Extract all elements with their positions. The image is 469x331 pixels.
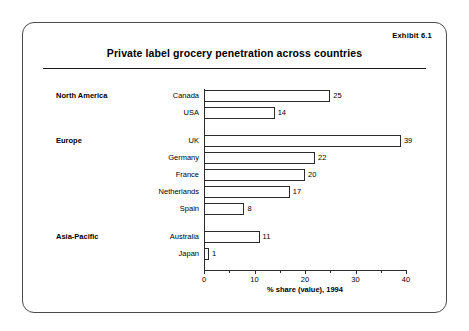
axis-tick-minor (280, 270, 281, 273)
country-label: Japan (116, 247, 199, 261)
axis-tick-major (406, 270, 407, 274)
bar-row: France20 (56, 168, 426, 182)
axis-tick-label: 20 (301, 275, 309, 284)
bar-track: 14 (204, 107, 426, 119)
bar-row: North AmericaCanada25 (56, 89, 426, 103)
bar-value-label: 8 (247, 203, 251, 215)
axis-tick-major (204, 270, 205, 274)
axis-tick-minor (330, 270, 331, 273)
axis-tick-minor (381, 270, 382, 273)
bar-row: USA14 (56, 106, 426, 120)
bar-track: 11 (204, 231, 426, 243)
group-gap (56, 123, 426, 134)
group-gap (56, 219, 426, 230)
axis-tick-label: 30 (351, 275, 359, 284)
bar-value-label: 39 (404, 135, 412, 147)
bar-track: 39 (204, 135, 426, 147)
bar-track: 25 (204, 90, 426, 102)
bar-chart: North AmericaCanada25USA14EuropeUK39Germ… (56, 89, 426, 294)
country-label: Canada (116, 89, 199, 103)
country-label: France (116, 168, 199, 182)
bar-value-label: 22 (318, 152, 326, 164)
bar (204, 203, 244, 215)
y-axis-line (204, 89, 205, 270)
axis-tick-major (255, 270, 256, 274)
bar (204, 231, 260, 243)
bar (204, 169, 305, 181)
bar-value-label: 1 (212, 248, 216, 260)
country-label: UK (116, 134, 199, 148)
country-label: Netherlands (116, 185, 199, 199)
bar-track: 20 (204, 169, 426, 181)
bar-row: Germany22 (56, 151, 426, 165)
page-title: Private label grocery penetration across… (23, 47, 446, 59)
axis-tick-label: 40 (402, 275, 410, 284)
axis-tick-label: 10 (250, 275, 258, 284)
bar-row: Spain8 (56, 202, 426, 216)
axis-tick-major (305, 270, 306, 274)
bar-track: 17 (204, 186, 426, 198)
bar-value-label: 20 (308, 169, 316, 181)
exhibit-frame: Exhibit 6.1 Private label grocery penetr… (22, 22, 447, 313)
bar-row: Netherlands17 (56, 185, 426, 199)
country-label: USA (116, 106, 199, 120)
bar (204, 107, 275, 119)
bar (204, 135, 401, 147)
bar (204, 152, 315, 164)
axis-tick-major (356, 270, 357, 274)
country-label: Australia (116, 230, 199, 244)
bar-track: 1 (204, 248, 426, 260)
bar-value-label: 14 (278, 107, 286, 119)
bar-row: EuropeUK39 (56, 134, 426, 148)
axis-tick-minor (229, 270, 230, 273)
bar-value-label: 25 (333, 90, 341, 102)
axis-tick-label: 0 (202, 275, 206, 284)
region-group: Asia-PacificAustralia11Japan1 (56, 230, 426, 261)
country-label: Germany (116, 151, 199, 165)
bar-track: 22 (204, 152, 426, 164)
bar-row: Japan1 (56, 247, 426, 261)
country-label: Spain (116, 202, 199, 216)
bar-row: Asia-PacificAustralia11 (56, 230, 426, 244)
bar-value-label: 11 (263, 231, 271, 243)
x-axis-label: % share (value), 1994 (204, 285, 406, 294)
title-divider (43, 68, 426, 69)
exhibit-number: Exhibit 6.1 (392, 31, 432, 40)
bar (204, 186, 290, 198)
bar-track: 8 (204, 203, 426, 215)
chart-rows: North AmericaCanada25USA14EuropeUK39Germ… (56, 89, 426, 261)
bar (204, 90, 330, 102)
bar-value-label: 17 (293, 186, 301, 198)
region-group: EuropeUK39Germany22France20Netherlands17… (56, 134, 426, 216)
region-group: North AmericaCanada25USA14 (56, 89, 426, 120)
